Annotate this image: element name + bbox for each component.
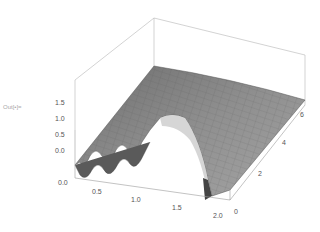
z-axis: 1.5 1.0 0.5 0.0 [55,99,65,154]
svg-text:1.0: 1.0 [55,115,65,122]
svg-text:2.0: 2.0 [213,212,223,219]
surface [75,66,305,200]
svg-text:0.5: 0.5 [55,131,65,138]
x-axis: 0.0 0.5 1.0 1.5 2.0 [58,179,223,219]
svg-text:4: 4 [282,139,286,146]
svg-text:1.5: 1.5 [172,204,182,211]
svg-text:6: 6 [300,111,304,118]
svg-text:1.0: 1.0 [131,196,141,203]
svg-text:0: 0 [234,208,238,215]
svg-text:0.5: 0.5 [92,188,102,195]
surface-plot-3d[interactable]: 1.5 1.0 0.5 0.0 0.0 0.5 1.0 1.5 2.0 0 2 … [0,0,320,232]
svg-text:0.0: 0.0 [58,179,68,186]
svg-text:1.5: 1.5 [55,99,65,106]
svg-text:0.0: 0.0 [55,147,65,154]
svg-text:2: 2 [258,170,262,177]
